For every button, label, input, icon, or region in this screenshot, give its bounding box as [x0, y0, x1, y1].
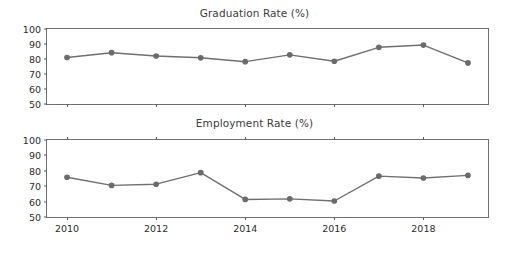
plot-area-employment-rate: 506070809010020102012201420162018: [46, 139, 489, 218]
figure-canvas: Graduation Rate (%) 5060708090100 Employ…: [0, 0, 509, 257]
ytick-label-employment-rate: 70: [29, 181, 41, 192]
xtick-mark-graduation-rate: [156, 104, 157, 107]
xtick-label-employment-rate: 2012: [144, 223, 168, 234]
ytick-label-graduation-rate: 90: [29, 39, 41, 50]
data-point-graduation-rate: [153, 53, 159, 59]
ytick-label-graduation-rate: 80: [29, 54, 41, 65]
ytick-label-employment-rate: 100: [23, 135, 41, 146]
data-point-employment-rate: [421, 175, 427, 181]
ytick-label-employment-rate: 50: [29, 212, 41, 223]
data-point-graduation-rate: [198, 55, 204, 61]
data-point-graduation-rate: [331, 58, 337, 64]
ytick-label-graduation-rate: 60: [29, 84, 41, 95]
series-line-graduation-rate: [47, 29, 488, 104]
data-point-employment-rate: [287, 196, 293, 202]
subplot-graduation-rate: Graduation Rate (%) 5060708090100: [0, 0, 509, 120]
plot-area-graduation-rate: 5060708090100: [46, 28, 489, 105]
xtick-mark-employment-rate: [67, 217, 68, 220]
xtick-mark-graduation-rate: [423, 104, 424, 107]
data-point-graduation-rate: [64, 55, 70, 61]
data-point-employment-rate: [64, 174, 70, 180]
ytick-label-graduation-rate: 70: [29, 69, 41, 80]
xtick-label-employment-rate: 2018: [411, 223, 435, 234]
series-line-employment-rate: [47, 140, 488, 217]
xtick-mark-graduation-rate: [334, 104, 335, 107]
ytick-label-employment-rate: 60: [29, 196, 41, 207]
data-point-graduation-rate: [242, 59, 248, 65]
data-point-graduation-rate: [376, 44, 382, 50]
chart-title-employment-rate: Employment Rate (%): [0, 117, 509, 129]
ytick-label-employment-rate: 90: [29, 150, 41, 161]
data-line-graduation-rate: [67, 45, 468, 63]
xtick-mark-employment-rate: [245, 217, 246, 220]
xtick-mark-graduation-rate: [245, 104, 246, 107]
xtick-mark-employment-rate: [156, 217, 157, 220]
xtick-mark-employment-rate: [423, 217, 424, 220]
data-point-employment-rate: [153, 181, 159, 187]
ytick-label-graduation-rate: 100: [23, 24, 41, 35]
data-point-graduation-rate: [287, 52, 293, 58]
xtick-label-employment-rate: 2016: [322, 223, 346, 234]
xtick-mark-employment-rate: [334, 217, 335, 220]
data-point-graduation-rate: [109, 50, 115, 56]
data-point-employment-rate: [376, 173, 382, 179]
data-point-employment-rate: [198, 170, 204, 176]
subplot-employment-rate: Employment Rate (%) 50607080901002010201…: [0, 112, 509, 257]
xtick-label-employment-rate: 2014: [233, 223, 257, 234]
data-point-employment-rate: [465, 173, 471, 179]
xtick-label-employment-rate: 2010: [55, 223, 79, 234]
data-point-employment-rate: [331, 198, 337, 204]
data-point-employment-rate: [242, 197, 248, 203]
data-point-graduation-rate: [421, 42, 427, 48]
data-point-employment-rate: [109, 183, 115, 189]
xtick-mark-graduation-rate: [67, 104, 68, 107]
chart-title-graduation-rate: Graduation Rate (%): [0, 7, 509, 19]
ytick-label-graduation-rate: 50: [29, 99, 41, 110]
data-line-employment-rate: [67, 173, 468, 201]
data-point-graduation-rate: [465, 60, 471, 66]
ytick-label-employment-rate: 80: [29, 165, 41, 176]
